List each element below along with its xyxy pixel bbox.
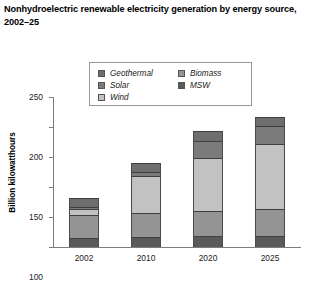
legend-label: Wind: [110, 93, 129, 102]
y-tick-mark: 100: [49, 187, 53, 188]
bar-segment-msw[interactable]: [194, 236, 222, 247]
chart-legend: GeothermalSolarWind BiomassMSW: [89, 62, 252, 106]
bar-segment-biomass[interactable]: [256, 209, 284, 236]
y-tick-mark: 0: [49, 247, 53, 248]
bar-segment-geothermal[interactable]: [194, 131, 222, 141]
x-tick-label: 2025: [244, 253, 296, 263]
x-tick-label: 2010: [120, 253, 172, 263]
y-tick-mark: 150: [49, 157, 53, 158]
bar-segment-biomass[interactable]: [132, 213, 160, 237]
y-axis-line: [53, 97, 54, 247]
legend-swatch-icon: [98, 70, 105, 77]
legend-swatch-icon: [178, 70, 185, 77]
legend-item[interactable]: Biomass: [178, 67, 221, 79]
bar-stack[interactable]: [193, 131, 223, 247]
y-axis-title: Billion kilowatthours: [6, 97, 18, 247]
bar-stack[interactable]: [69, 198, 99, 247]
chart-title: Nonhydroelectric renewable electricity g…: [4, 3, 304, 28]
bar-segment-wind[interactable]: [70, 209, 98, 216]
bar-segment-biomass[interactable]: [194, 211, 222, 236]
legend-item[interactable]: Wind: [98, 91, 153, 103]
y-tick-label: 200: [29, 152, 43, 162]
legend-item[interactable]: MSW: [178, 79, 221, 91]
bar-segment-wind[interactable]: [132, 176, 160, 213]
y-tick-label: 250: [29, 92, 43, 102]
legend-swatch-icon: [98, 82, 105, 89]
y-tick-label: 100: [29, 272, 43, 282]
plot-area: 050100150200250 2002201020202025: [53, 97, 301, 247]
y-tick-mark: 250: [49, 97, 53, 98]
legend-label: MSW: [190, 81, 210, 90]
legend-label: Biomass: [190, 69, 221, 78]
x-tick-label: 2002: [58, 253, 110, 263]
bar-stack[interactable]: [255, 117, 285, 247]
bar-segment-msw[interactable]: [132, 237, 160, 247]
bar-segment-wind[interactable]: [194, 158, 222, 211]
x-tick-label: 2020: [182, 253, 234, 263]
legend-column-left: GeothermalSolarWind: [98, 67, 153, 103]
y-tick-label: 150: [29, 212, 43, 222]
legend-label: Solar: [110, 81, 129, 90]
legend-swatch-icon: [178, 82, 185, 89]
legend-item[interactable]: Solar: [98, 79, 153, 91]
legend-label: Geothermal: [110, 69, 153, 78]
y-tick-mark: 200: [49, 127, 53, 128]
bar-segment-geothermal[interactable]: [132, 163, 160, 172]
legend-item[interactable]: Geothermal: [98, 67, 153, 79]
bar-segment-solar[interactable]: [256, 126, 284, 144]
y-axis-title-text: Billion kilowatthours: [8, 132, 17, 213]
bar-segment-msw[interactable]: [70, 238, 98, 247]
bar-segment-geothermal[interactable]: [70, 198, 98, 207]
bar-segment-msw[interactable]: [256, 236, 284, 247]
bar-stack[interactable]: [131, 163, 161, 247]
legend-column-right: BiomassMSW: [178, 67, 221, 91]
bar-segment-solar[interactable]: [194, 141, 222, 158]
y-tick-mark: 50: [49, 217, 53, 218]
bar-segment-wind[interactable]: [256, 144, 284, 209]
legend-swatch-icon: [98, 94, 105, 101]
x-axis-line: [53, 247, 301, 248]
bar-segment-geothermal[interactable]: [256, 117, 284, 127]
chart-page: Nonhydroelectric renewable electricity g…: [0, 0, 310, 282]
bar-segment-biomass[interactable]: [70, 215, 98, 238]
